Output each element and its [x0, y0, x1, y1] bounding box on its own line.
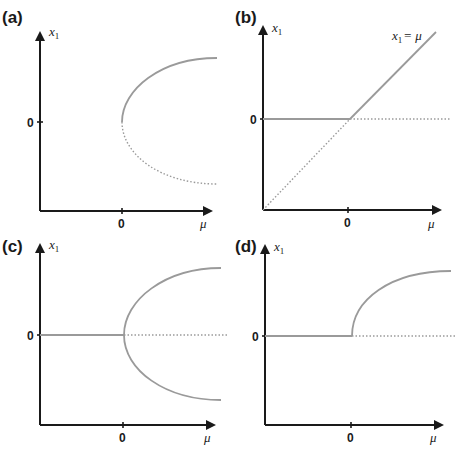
stable-upper-branch-d	[352, 271, 451, 336]
unstable-branch-a	[122, 122, 217, 184]
stable-diagonal-branch-b	[350, 32, 436, 119]
bifurcation-figure: (a) x1 0 0 μ (b) x1 0 0 μ x1= μ (c) x1 0	[0, 0, 467, 459]
panel-d: (d) x1 0 0 μ	[235, 237, 455, 445]
y-zero-label-b: 0	[250, 113, 257, 127]
annotation-x1-equals-mu: x1= μ	[391, 28, 422, 45]
y-zero-label-c: 0	[27, 329, 34, 343]
x-axis-label-b: μ	[427, 216, 435, 231]
x-zero-label-c: 0	[119, 431, 126, 445]
panel-label-d: (d)	[235, 237, 257, 256]
stable-upper-branch-c	[124, 268, 221, 335]
y-axis-label-d: x1	[273, 239, 284, 256]
x-axis-label-c: μ	[203, 430, 211, 445]
x-zero-label-b: 0	[344, 216, 351, 230]
y-axis-label-b: x1	[271, 20, 282, 37]
panel-label-b: (b)	[235, 8, 257, 27]
y-axis-label-c: x1	[48, 237, 59, 254]
stable-branch-a	[122, 58, 217, 122]
x-zero-label-d: 0	[347, 431, 354, 445]
panel-b: (b) x1 0 0 μ x1= μ	[235, 8, 451, 231]
x-axis-label-d: μ	[429, 430, 437, 445]
y-zero-label-d: 0	[252, 330, 259, 344]
panel-a: (a) x1 0 0 μ	[2, 8, 217, 231]
panel-label-c: (c)	[2, 237, 23, 256]
x-zero-label-a: 0	[118, 217, 125, 231]
y-axis-label-a: x1	[48, 24, 59, 41]
unstable-diagonal-branch-b	[263, 119, 350, 210]
panel-label-a: (a)	[2, 8, 23, 27]
y-zero-label-a: 0	[27, 116, 34, 130]
x-axis-label-a: μ	[199, 216, 207, 231]
stable-lower-branch-c	[124, 335, 221, 400]
panel-c: (c) x1 0 0 μ	[2, 237, 228, 445]
